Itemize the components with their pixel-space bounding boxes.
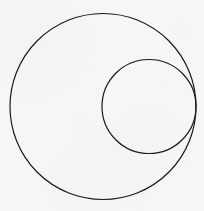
figure-root	[0, 0, 204, 211]
circles-diagram	[0, 0, 204, 211]
